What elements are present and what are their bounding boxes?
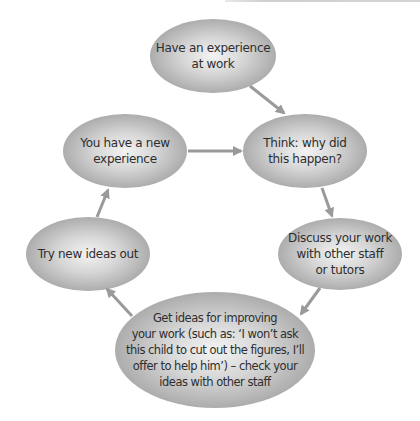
arrow-try-to-new-experience (97, 190, 108, 217)
node-discuss-label: Discuss your work with other staff or tu… (278, 218, 402, 290)
node-experience-label: Have an experience at work (150, 19, 276, 93)
node-get-ideas-label: Get ideas for improving your work (such … (115, 292, 315, 408)
node-think-label: Think: why did this happen? (243, 114, 367, 188)
node-new-experience-label: You have a new experience (63, 114, 187, 188)
node-try-label: Try new ideas out (26, 217, 150, 291)
arrow-think-to-discuss (322, 188, 332, 216)
